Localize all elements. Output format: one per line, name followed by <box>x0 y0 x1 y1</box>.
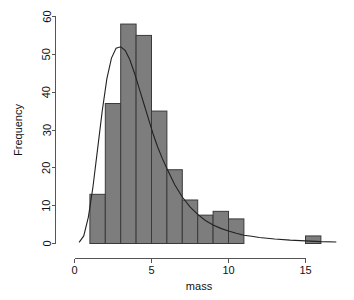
y-axis-tick-label: 60 <box>41 10 53 22</box>
x-axis-tick-label: 15 <box>299 264 311 276</box>
histogram-bar <box>152 111 167 243</box>
histogram-bar <box>90 194 105 243</box>
histogram-bar <box>105 104 120 244</box>
histogram-bar <box>167 170 182 244</box>
x-axis-tick-label: 5 <box>148 264 154 276</box>
x-axis-label: mass <box>186 280 213 292</box>
y-axis-tick-label: 30 <box>41 124 53 136</box>
y-axis-tick-label: 0 <box>41 240 53 246</box>
x-axis: 051015 <box>71 259 311 276</box>
plot-area: 0102030405060 051015 mass Frequency <box>0 0 354 300</box>
y-axis-tick-label: 50 <box>41 48 53 60</box>
x-axis-tick-label: 0 <box>71 264 77 276</box>
y-axis-tick-label: 20 <box>41 162 53 174</box>
x-axis-tick-label: 10 <box>222 264 234 276</box>
histogram-bar <box>136 35 151 243</box>
histogram-bar <box>306 236 321 244</box>
y-axis: 0102030405060 <box>41 10 56 246</box>
y-axis-tick-label: 10 <box>41 200 53 212</box>
histogram-bar <box>198 215 213 243</box>
y-axis-tick-label: 40 <box>41 86 53 98</box>
y-axis-label: Frequency <box>12 104 24 156</box>
histogram-chart: 0102030405060 051015 mass Frequency <box>0 0 354 300</box>
histogram-bar <box>213 211 228 243</box>
bars-group <box>90 24 321 243</box>
